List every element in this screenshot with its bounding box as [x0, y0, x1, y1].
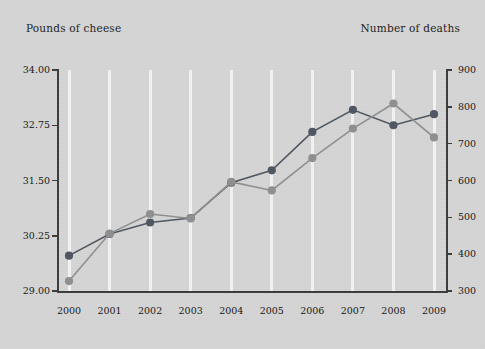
right-axis-tick-label: 300 — [458, 285, 476, 296]
gridline — [230, 70, 233, 291]
x-axis-tick-label: 2008 — [381, 305, 405, 316]
x-axis-tick-label: 2006 — [300, 305, 324, 316]
gridline — [433, 70, 436, 291]
gridline — [311, 70, 314, 291]
right-axis-title: Number of deaths — [360, 22, 460, 34]
series-line-cheese — [69, 110, 434, 256]
left-axis-tick — [52, 235, 57, 237]
gridline — [149, 70, 152, 291]
right-axis-tick-label: 700 — [458, 138, 476, 149]
left-axis-tick-label: 32.75 — [23, 119, 50, 130]
x-axis-tick-label: 2009 — [422, 305, 446, 316]
gridline — [270, 70, 273, 291]
left-axis-tick — [52, 69, 57, 71]
gridline — [68, 70, 71, 291]
chart-container: Pounds of cheese Number of deaths 29.003… — [0, 0, 485, 349]
right-axis-tick — [447, 69, 452, 71]
gridline — [189, 70, 192, 291]
gridline — [392, 70, 395, 291]
x-axis-tick-label: 2002 — [138, 305, 162, 316]
right-axis-tick-label: 600 — [458, 175, 476, 186]
right-axis-tick-label: 400 — [458, 248, 476, 259]
x-axis-tick-label: 2003 — [179, 305, 203, 316]
right-axis-tick — [447, 106, 452, 108]
right-axis-tick-label: 500 — [458, 211, 476, 222]
right-axis-tick — [447, 143, 452, 145]
right-axis-tick-label: 800 — [458, 101, 476, 112]
left-axis-tick — [52, 180, 57, 182]
x-axis-line — [57, 291, 448, 293]
right-axis-tick — [447, 253, 452, 255]
right-axis-tick-label: 900 — [458, 64, 476, 75]
right-axis-tick — [447, 290, 452, 292]
gridline — [351, 70, 354, 291]
x-axis-tick-label: 2000 — [57, 305, 81, 316]
left-axis-title: Pounds of cheese — [26, 22, 121, 34]
left-axis-tick — [52, 290, 57, 292]
series-layer — [0, 0, 485, 349]
right-axis-tick — [447, 217, 452, 219]
x-axis-tick-label: 2007 — [341, 305, 365, 316]
x-axis-tick-label: 2004 — [219, 305, 243, 316]
left-axis-tick-label: 31.50 — [23, 175, 50, 186]
x-axis-tick-label: 2001 — [97, 305, 121, 316]
left-axis-tick-label: 29.00 — [23, 285, 50, 296]
series-line-deaths — [69, 104, 434, 282]
x-axis-tick-label: 2005 — [260, 305, 284, 316]
left-axis-tick — [52, 125, 57, 127]
gridline — [108, 70, 111, 291]
right-axis-tick — [447, 180, 452, 182]
left-axis-tick-label: 30.25 — [23, 230, 50, 241]
left-axis-line — [57, 69, 59, 292]
left-axis-tick-label: 34.00 — [23, 64, 50, 75]
